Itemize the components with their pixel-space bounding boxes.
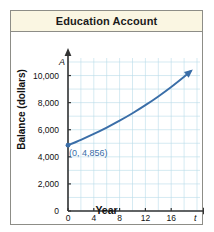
y-tick-label: 4,000 [19,152,59,162]
data-curve [68,69,193,145]
y-tick-labels: 02,0004,0006,0008,00010,000 [19,32,59,225]
plot-area: Balance (dollars) 02,0004,0006,0008,0001… [11,32,202,225]
chart-figure: Education Account Balance (dollars) 02,0… [10,10,203,225]
chart-title-bar: Education Account [11,11,202,32]
y-tick-label: 10,000 [19,71,59,81]
data-point-marker [66,143,71,148]
x-axis-title: Year [11,204,202,216]
axis-lines [65,48,204,214]
y-axis-variable-label: A [59,57,65,67]
y-tick-label: 8,000 [19,98,59,108]
y-tick-label: 2,000 [19,179,59,189]
page-title: Education Account [56,15,158,27]
data-point-annotation: (0, 4,856) [69,148,108,158]
y-tick-label: 6,000 [19,125,59,135]
